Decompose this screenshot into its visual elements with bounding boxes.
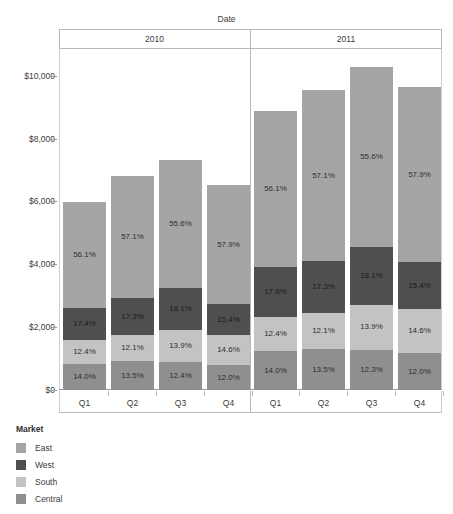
plot-border-left [59,49,60,390]
segment-value-label: 13.5% [121,372,144,380]
bar-segment-central[interactable]: 13.5% [111,361,154,390]
bar-segment-central[interactable]: 12.4% [159,362,202,390]
bar-2010-Q1[interactable]: 56.1%17.4%12.4%14.0% [63,202,106,390]
legend-swatch-icon [16,460,26,470]
legend-item-south[interactable]: South [16,473,62,490]
segment-value-label: 13.9% [169,342,192,350]
segment-value-label: 15.4% [217,316,240,324]
bar-2010-Q2[interactable]: 57.1%17.3%12.1%13.5% [111,176,154,390]
segment-value-label: 14.6% [217,346,240,354]
bar-2011-Q3[interactable]: 55.6%18.1%13.9%12.3% [350,67,393,390]
bar-2011-Q4[interactable]: 57.9%15.4%14.6%12.0% [398,87,441,390]
plot-area: 56.1%17.4%12.4%14.0%57.1%17.3%12.1%13.5%… [59,49,442,390]
x-axis-title: Date [0,14,453,24]
bar-segment-west[interactable]: 17.3% [111,298,154,335]
bar-segment-south[interactable]: 14.6% [207,335,250,365]
y-tick-mark [52,201,57,202]
segment-value-label: 12.4% [169,372,192,380]
segment-value-label: 14.0% [73,373,96,381]
y-tick-mark [52,76,57,77]
bar-segment-south[interactable]: 13.9% [350,305,393,350]
legend-title: Market [16,424,62,434]
group-header-2011: 2011 [250,29,442,49]
bar-segment-central[interactable]: 12.0% [398,353,441,389]
bar-segment-west[interactable]: 17.6% [254,267,297,316]
x-tick-label-q2-2011: Q2 [300,395,348,411]
bar-segment-east[interactable]: 55.6% [159,160,202,288]
plot-group-divider [250,49,251,390]
segment-value-label: 57.1% [312,172,335,180]
segment-value-label: 17.4% [73,320,96,328]
segment-value-label: 18.1% [360,272,383,280]
bar-segment-west[interactable]: 17.4% [63,308,106,341]
segment-value-label: 57.1% [121,233,144,241]
bar-segment-east[interactable]: 55.6% [350,67,393,247]
legend-item-label: Central [35,494,62,504]
legend-item-central[interactable]: Central [16,490,62,507]
segment-value-label: 12.1% [121,344,144,352]
segment-value-label: 56.1% [73,251,96,259]
segment-value-label: 57.9% [217,241,240,249]
legend-swatch-icon [16,443,26,453]
legend-item-label: South [35,477,57,487]
segment-value-label: 15.4% [408,282,431,290]
bar-segment-south[interactable]: 12.1% [111,335,154,361]
legend-swatch-icon [16,494,26,504]
segment-value-label: 13.5% [312,366,335,374]
x-tick-label-q3-2011: Q3 [348,395,396,411]
bar-segment-east[interactable]: 57.9% [207,185,250,304]
bar-2011-Q2[interactable]: 57.1%17.3%12.1%13.5% [302,90,345,390]
bar-segment-east[interactable]: 57.1% [111,176,154,298]
segment-value-label: 14.0% [264,367,287,375]
bar-segment-central[interactable]: 14.0% [254,351,297,390]
legend-item-east[interactable]: East [16,439,62,456]
bar-segment-east[interactable]: 56.1% [254,111,297,268]
bar-2011-Q1[interactable]: 56.1%17.6%12.4%14.0% [254,111,297,390]
bar-segment-west[interactable]: 15.4% [207,304,250,336]
bar-segment-east[interactable]: 57.1% [302,90,345,261]
legend-item-west[interactable]: West [16,456,62,473]
x-tick-label-q2-2010: Q2 [109,395,157,411]
y-tick-mark [52,139,57,140]
x-tick-mark [443,391,444,396]
legend: Market EastWestSouthCentral [16,424,62,507]
bar-segment-south[interactable]: 12.4% [254,317,297,352]
bar-segment-east[interactable]: 57.9% [398,87,441,262]
legend-item-label: West [35,460,54,470]
bar-2010-Q3[interactable]: 55.6%18.1%13.9%12.4% [159,160,202,390]
bar-segment-central[interactable]: 12.3% [350,350,393,390]
stacked-bar-chart: Date 2010 2011 Profit $10,000 $8,000 $6,… [0,0,453,514]
bar-segment-east[interactable]: 56.1% [63,202,106,307]
bar-segment-south[interactable]: 12.1% [302,313,345,349]
segment-value-label: 17.3% [312,283,335,291]
x-tick-label-q4-2010: Q4 [205,395,253,411]
x-tick-label-q3-2010: Q3 [157,395,205,411]
y-tick-mark [52,327,57,328]
legend-item-label: East [35,443,52,453]
bar-segment-west[interactable]: 18.1% [350,247,393,305]
segment-value-label: 12.0% [217,374,240,382]
y-tick-mark [52,264,57,265]
bar-segment-central[interactable]: 12.0% [207,365,250,390]
segment-value-label: 56.1% [264,185,287,193]
bar-segment-central[interactable]: 13.5% [302,349,345,390]
bar-segment-central[interactable]: 14.0% [63,364,106,390]
bar-segment-west[interactable]: 15.4% [398,262,441,309]
bar-2010-Q4[interactable]: 57.9%15.4%14.6%12.0% [207,185,250,390]
segment-value-label: 17.6% [264,288,287,296]
group-header-2010: 2010 [59,29,250,49]
segment-value-label: 18.1% [169,305,192,313]
legend-items: EastWestSouthCentral [16,439,62,507]
bar-segment-south[interactable]: 14.6% [398,309,441,353]
bar-segment-west[interactable]: 17.3% [302,261,345,313]
segment-value-label: 55.6% [169,220,192,228]
y-tick-mark [52,390,57,391]
segment-value-label: 55.6% [360,153,383,161]
bar-segment-south[interactable]: 13.9% [159,330,202,362]
x-tick-label-q4-2011: Q4 [396,395,444,411]
segment-value-label: 13.9% [360,323,383,331]
segment-value-label: 14.6% [408,327,431,335]
y-tick-label-10000: $10,000 [24,71,55,81]
bar-segment-south[interactable]: 12.4% [63,340,106,363]
bar-segment-west[interactable]: 18.1% [159,288,202,330]
